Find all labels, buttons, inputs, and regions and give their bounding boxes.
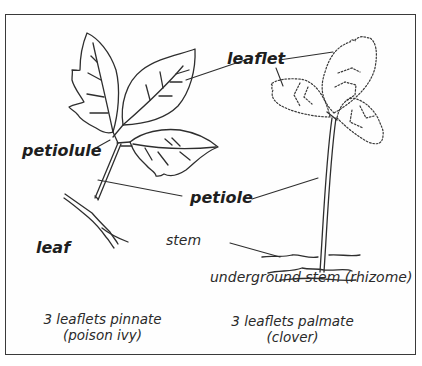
label-petiole: petiole [190,190,253,206]
leader-petiole-clover [252,178,318,199]
caption-pinnate-line2: (poison ivy) [30,327,175,343]
label-rhizome: underground stem (rhizome) [210,270,412,284]
clover-top-leaflet [322,37,376,113]
leader-petiole-ivy [98,180,182,196]
label-leaflet: leaflet [227,51,285,67]
caption-palmate-line1: 3 leaflets palmate [220,313,365,329]
leader-lines [92,52,333,257]
leader-rhizome [230,243,280,257]
caption-pinnate: 3 leaflets pinnate (poison ivy) [30,311,175,343]
label-petiolule: petiolule [22,143,102,159]
label-leaf: leaf [36,240,70,256]
clover-left-leaflet [271,79,330,117]
poison-ivy-upper-right-leaflet [122,49,195,125]
poison-ivy-stem [64,194,128,248]
leader-leaflet-clover-left [276,68,283,86]
poison-ivy-lower-right-leaflet [130,130,218,177]
caption-pinnate-line1: 3 leaflets pinnate [30,311,175,327]
caption-palmate-line2: (clover) [220,329,365,345]
leader-leaflet-clover-top [279,52,333,60]
poison-ivy-left-leaflet [69,33,119,133]
clover-right-leaflet [337,98,383,144]
label-stem: stem [166,233,201,247]
clover-petiole [320,112,337,272]
poison-ivy-petiole [95,125,132,200]
caption-palmate: 3 leaflets palmate (clover) [220,313,365,345]
